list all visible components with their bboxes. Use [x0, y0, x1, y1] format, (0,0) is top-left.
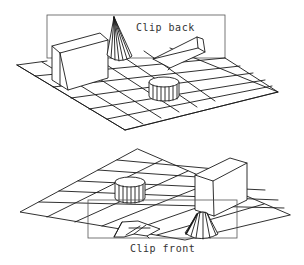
grid-floor-bottom	[20, 149, 290, 240]
clip-back-label: Clip back	[136, 22, 195, 33]
wedge-top	[153, 37, 205, 70]
clipping-diagram: Clip back	[0, 0, 304, 265]
clip-front-label: Clip front	[130, 243, 195, 254]
wedge-bottom	[114, 221, 160, 238]
bottom-panel: Clip front	[20, 149, 290, 254]
cone-top	[107, 17, 132, 61]
cylinder-bottom	[115, 177, 145, 203]
top-panel: Clip back	[17, 15, 278, 130]
cylinder-top	[149, 77, 179, 101]
